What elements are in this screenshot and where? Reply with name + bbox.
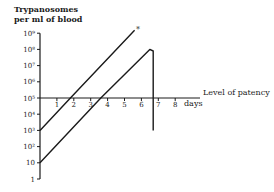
series-line-1 [40, 30, 135, 130]
x-axis: 12345678 [40, 98, 200, 109]
data-series [40, 30, 153, 163]
y-tick-label: 10³ [23, 127, 35, 135]
chart-canvas: 11010²10³10⁴10⁵10⁶10⁷10⁸10⁹ 12345678 Lev… [0, 0, 274, 192]
asterisk-annotation: * [136, 25, 140, 34]
x-tick-label: 8 [173, 101, 177, 109]
y-axis: 11010²10³10⁴10⁵10⁶10⁷10⁸10⁹ [23, 30, 40, 184]
x-tick-label: 4 [105, 101, 110, 109]
y-tick-label: 10⁵ [23, 95, 35, 103]
x-axis-title: days [184, 99, 203, 108]
y-tick-label: 10⁶ [23, 78, 35, 86]
x-tick-label: 7 [156, 101, 160, 109]
x-tick-label: 5 [122, 101, 126, 109]
y-tick-label: 10² [23, 143, 35, 151]
y-tick-label: 10⁴ [23, 111, 35, 119]
y-tick-label: 10⁸ [23, 46, 35, 54]
y-tick-label: 1 [31, 176, 35, 184]
y-tick-label: 10⁷ [23, 62, 35, 70]
y-tick-label: 10 [26, 159, 35, 167]
y-tick-label: 10⁹ [23, 30, 35, 38]
patency-label: Level of patency [203, 88, 270, 97]
x-tick-label: 1 [55, 101, 59, 109]
x-tick-label: 2 [72, 101, 76, 109]
x-tick-label: 6 [139, 101, 144, 109]
